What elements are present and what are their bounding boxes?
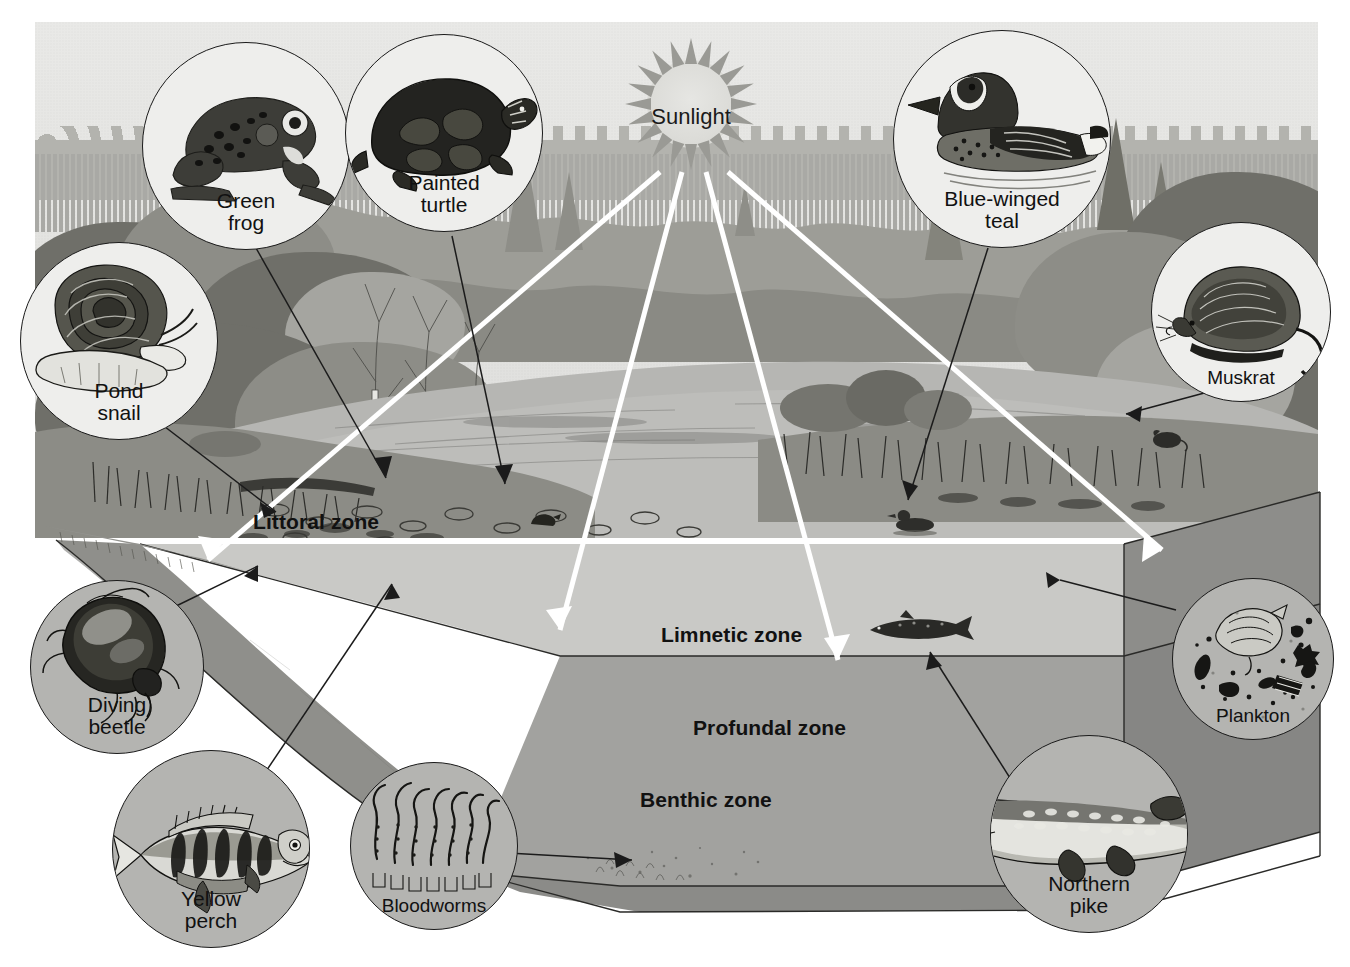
leader-blue-winged-teal [908, 248, 988, 500]
leader-arrowhead-teal [902, 480, 918, 500]
muskrat-illustration [1152, 223, 1330, 401]
diving-beetle-illustration [31, 581, 203, 753]
leader-arrowhead-bloodworms [614, 852, 632, 868]
callout-diving-beetle[interactable]: Diving beetle [30, 580, 204, 754]
pond-snail-illustration [21, 243, 217, 439]
green-frog-illustration [143, 43, 349, 249]
callout-plankton[interactable]: Plankton [1172, 578, 1334, 740]
callout-yellow-perch[interactable]: Yellow perch [112, 750, 310, 948]
callout-blue-winged-teal[interactable]: Blue-winged teal [893, 30, 1111, 248]
leader-arrowhead-diving-beetle [244, 566, 258, 582]
callout-muskrat[interactable]: Muskrat [1151, 222, 1331, 402]
callout-painted-turtle[interactable]: Painted turtle [345, 34, 543, 232]
leader-green-frog [256, 248, 386, 478]
leader-arrowhead-plankton [1046, 572, 1060, 588]
bloodworms-illustration [351, 763, 517, 929]
callout-pond-snail[interactable]: Pond snail [20, 242, 218, 440]
callout-bloodworms[interactable]: Bloodworms [350, 762, 518, 930]
blue-winged-teal-illustration [894, 31, 1110, 247]
lake-ecosystem-diagram: Sunlight [0, 0, 1350, 967]
plankton-illustration [1173, 579, 1333, 739]
leader-arrowhead-muskrat [1126, 406, 1142, 422]
leader-arrowhead-green-frog [374, 456, 392, 478]
northern-pike-illustration [991, 736, 1187, 932]
callout-green-frog[interactable]: Green frog [142, 42, 350, 250]
leader-plankton [1060, 580, 1176, 610]
callout-northern-pike[interactable]: Northern pike [990, 735, 1188, 933]
yellow-perch-illustration [113, 751, 309, 947]
painted-turtle-illustration [346, 35, 542, 231]
leader-arrowhead-painted-turtle [495, 464, 513, 484]
leader-painted-turtle [452, 236, 505, 484]
